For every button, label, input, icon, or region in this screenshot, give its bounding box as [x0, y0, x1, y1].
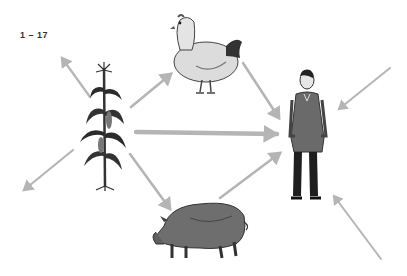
arrow-corn-to-outside-upper-left — [62, 58, 90, 97]
arrow-outside-to-human-upper-right — [339, 68, 390, 109]
arrow-corn-to-outside-lower-left — [24, 150, 73, 190]
arrow-pig-to-human — [220, 153, 280, 198]
arrow-chicken-to-human — [243, 63, 279, 118]
pig-icon — [153, 203, 248, 258]
arrow-corn-to-chicken — [131, 74, 171, 107]
food-chain-diagram: 1 – 17 — [0, 0, 407, 276]
arrow-corn-to-pig — [130, 154, 170, 209]
person-icon — [290, 70, 326, 198]
arrow-outside-to-human-lower-right — [334, 196, 381, 259]
diagram-canvas — [0, 0, 407, 276]
chicken-icon — [170, 15, 242, 93]
arrow-corn-to-human — [136, 132, 277, 134]
corn-plant-icon — [80, 62, 126, 191]
